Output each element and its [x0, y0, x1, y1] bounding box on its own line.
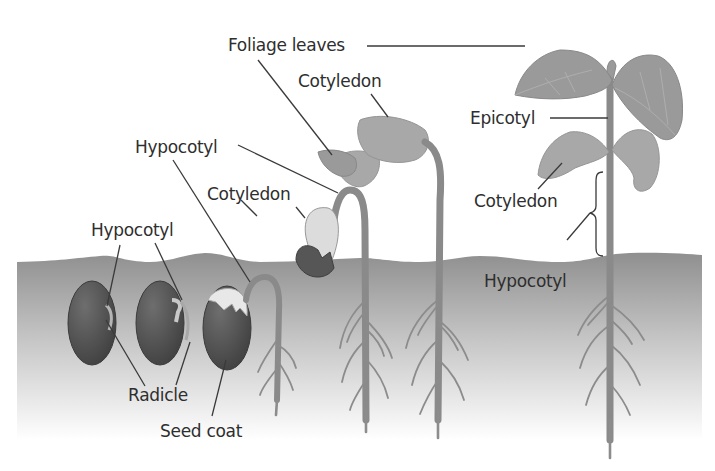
label-hypocotyl-stage4: Hypocotyl	[135, 137, 218, 157]
seed-stage-1	[68, 281, 116, 365]
label-radicle: Radicle	[128, 385, 188, 405]
label-seed-coat: Seed coat	[160, 421, 243, 441]
germination-diagram: Foliage leaves Cotyledon Hypocotyl Cotyl…	[0, 0, 715, 471]
label-foliage-leaves: Foliage leaves	[228, 35, 345, 55]
label-cotyledon-stage6: Cotyledon	[474, 191, 557, 211]
label-hypocotyl-stage2: Hypocotyl	[91, 220, 174, 240]
label-cotyledon-stage5: Cotyledon	[298, 71, 381, 91]
label-epicotyl: Epicotyl	[470, 108, 535, 128]
label-hypocotyl-stage6: Hypocotyl	[484, 271, 567, 291]
label-cotyledon-stage4: Cotyledon	[207, 184, 290, 204]
